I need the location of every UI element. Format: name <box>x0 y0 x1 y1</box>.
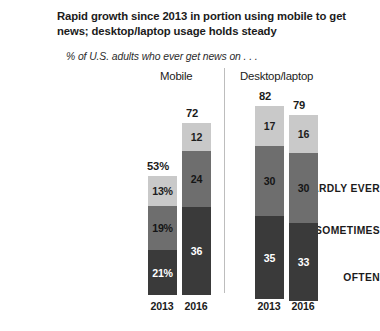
chart-root: Rapid growth since 2013 in portion using… <box>0 0 380 331</box>
segment-hardly-ever[interactable]: 13% <box>148 176 177 206</box>
bar-total-mobile-2016: 72 <box>172 107 212 119</box>
chart-title: Rapid growth since 2013 in portion using… <box>57 9 369 38</box>
segment-sometimes[interactable]: 30 <box>289 153 318 223</box>
bar-total-mobile-2013: 53% <box>138 160 178 172</box>
segment-sometimes[interactable]: 30 <box>255 146 284 216</box>
panel-header-desktop: Desktop/laptop <box>240 70 313 82</box>
segment-often[interactable]: 33 <box>289 223 318 301</box>
x-tick-desktop-2016: 2016 <box>283 300 323 312</box>
bar-mobile-2013[interactable]: 13% 19% 21% <box>148 176 177 295</box>
x-tick-mobile-2016: 2016 <box>176 300 216 312</box>
segment-hardly-ever[interactable]: 17 <box>255 106 284 146</box>
segment-sometimes[interactable]: 19% <box>148 206 177 250</box>
bar-total-desktop-2016: 79 <box>279 99 319 111</box>
panel-header-mobile: Mobile <box>160 70 192 82</box>
bar-mobile-2016[interactable]: 12 24 36 <box>182 123 211 295</box>
bar-desktop-2016[interactable]: 16 30 33 <box>289 115 318 301</box>
segment-hardly-ever[interactable]: 12 <box>182 123 211 151</box>
segment-often[interactable]: 21% <box>148 250 177 295</box>
panel-divider <box>224 68 225 293</box>
segment-often[interactable]: 36 <box>182 207 211 295</box>
segment-sometimes[interactable]: 24 <box>182 151 211 207</box>
chart-subtitle: % of U.S. adults who ever get news on . … <box>66 51 258 62</box>
segment-hardly-ever[interactable]: 16 <box>289 115 318 153</box>
bar-desktop-2013[interactable]: 17 30 35 <box>255 106 284 299</box>
segment-often[interactable]: 35 <box>255 216 284 299</box>
